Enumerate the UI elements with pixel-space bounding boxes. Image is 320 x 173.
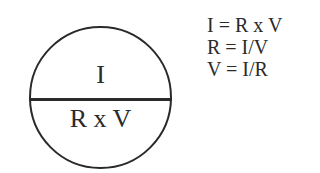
formula-resistance: R = I/V (207, 36, 282, 58)
circle-top-label: I (29, 60, 172, 90)
circle-divider-line (29, 98, 172, 101)
formula-current: I = R x V (207, 14, 282, 36)
formula-voltage: V = I/R (207, 58, 282, 80)
circle-bottom-label: R x V (29, 104, 172, 134)
formula-list: I = R x V R = I/V V = I/R (207, 14, 282, 80)
